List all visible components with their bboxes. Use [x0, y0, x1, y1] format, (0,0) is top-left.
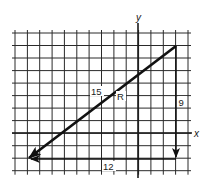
- y-axis-label: y: [135, 12, 142, 23]
- labels: y x 15 R 9 12: [90, 12, 200, 172]
- x-axis-label: x: [193, 128, 200, 139]
- vertical-magnitude-label: 9: [179, 97, 184, 108]
- horizontal-magnitude-label: 12: [103, 161, 114, 172]
- resultant-symbol-label: R: [117, 91, 124, 102]
- resultant-vector: [29, 46, 176, 158]
- vector-diagram: y x 15 R 9 12: [0, 0, 211, 186]
- resultant-magnitude-label: 15: [91, 86, 102, 97]
- vectors: [29, 46, 176, 159]
